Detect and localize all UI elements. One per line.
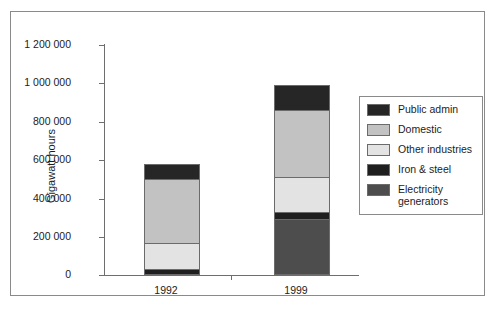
- legend-item-electricity-generators[interactable]: Electricity generators: [367, 183, 476, 207]
- y-tick-400000: [99, 199, 104, 200]
- bar-1992[interactable]: [144, 164, 200, 275]
- y-tick-label-1200000: 1 200 000: [24, 39, 71, 50]
- chart-legend: Public admin Domestic Other industries I…: [359, 96, 483, 215]
- x-tick-label-1992: 1992: [121, 284, 211, 296]
- bar-1999-segment-electricity-generators: [274, 219, 330, 275]
- chart-figure: Gigawatt hours 1 200 000 1 000 000 800 0…: [0, 0, 497, 315]
- legend-item-iron-and-steel[interactable]: Iron & steel: [367, 163, 476, 176]
- legend-swatch-domestic: [367, 124, 390, 136]
- bar-1992-segment-domestic: [144, 179, 200, 244]
- legend-label-iron-and-steel: Iron & steel: [398, 163, 451, 175]
- y-tick-label-200000: 200 000: [33, 231, 71, 242]
- y-tick-label-800000: 800 000: [33, 116, 71, 127]
- legend-label-public-admin: Public admin: [398, 103, 458, 115]
- bar-1999-segment-public-admin: [274, 85, 330, 111]
- chart-frame: Gigawatt hours 1 200 000 1 000 000 800 0…: [10, 11, 485, 296]
- y-tick-1200000: [99, 45, 104, 46]
- legend-swatch-iron-and-steel: [367, 164, 390, 176]
- y-tick-label-1000000: 1 000 000: [24, 77, 71, 88]
- bar-1999[interactable]: [274, 85, 330, 275]
- y-axis-line: [104, 44, 105, 276]
- x-tick-label-1999: 1999: [251, 284, 341, 296]
- y-tick-0: [99, 275, 104, 276]
- y-tick-600000: [99, 160, 104, 161]
- bar-1992-segment-public-admin: [144, 164, 200, 180]
- bar-1999-segment-other-industries: [274, 177, 330, 213]
- y-tick-label-0: 0: [65, 269, 71, 280]
- legend-swatch-other-industries: [367, 144, 390, 156]
- x-tick-1992: [231, 275, 232, 280]
- legend-label-electricity-generators: Electricity generators: [398, 183, 448, 207]
- legend-swatch-electricity-generators: [367, 184, 390, 196]
- legend-swatch-public-admin: [367, 104, 390, 116]
- y-tick-1000000: [99, 83, 104, 84]
- y-tick-200000: [99, 237, 104, 238]
- legend-item-domestic[interactable]: Domestic: [367, 123, 476, 136]
- bar-1999-segment-domestic: [274, 110, 330, 178]
- y-tick-800000: [99, 122, 104, 123]
- bar-1992-segment-other-industries: [144, 243, 200, 270]
- legend-label-domestic: Domestic: [398, 123, 442, 135]
- legend-item-public-admin[interactable]: Public admin: [367, 103, 476, 116]
- y-tick-label-600000: 600 000: [33, 154, 71, 165]
- bar-1992-segment-iron-and-steel: [144, 269, 200, 275]
- y-tick-label-400000: 400 000: [33, 193, 71, 204]
- legend-label-other-industries: Other industries: [398, 143, 472, 155]
- legend-item-other-industries[interactable]: Other industries: [367, 143, 476, 156]
